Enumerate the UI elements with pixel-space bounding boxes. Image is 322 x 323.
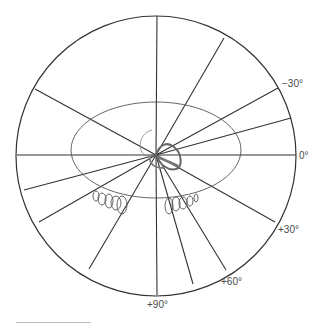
- polar-diagram: −30°0°+30°+60°+90°: [0, 0, 322, 323]
- loop-ellipse: [117, 196, 127, 214]
- angle-label: +60°: [221, 276, 242, 287]
- spoke-line: [156, 155, 157, 295]
- loop-ellipse: [194, 194, 198, 202]
- spoke-line: [156, 16, 157, 155]
- angle-label: 0°: [299, 150, 309, 161]
- spoke-line: [156, 155, 193, 284]
- loop-ellipse: [187, 196, 193, 206]
- retrograde-loops: [93, 191, 198, 214]
- angle-labels: −30°0°+30°+60°+90°: [147, 78, 309, 310]
- small-arc-curve: [140, 130, 156, 156]
- spoke-line: [156, 88, 278, 155]
- angle-label: +90°: [147, 299, 168, 310]
- spoke-line: [156, 38, 224, 155]
- angle-label: −30°: [282, 78, 303, 89]
- angle-label: +30°: [278, 224, 299, 235]
- spoke-line: [39, 155, 156, 222]
- spoke-line: [24, 155, 156, 190]
- spoke-line: [89, 155, 156, 269]
- spoke-line: [35, 89, 156, 155]
